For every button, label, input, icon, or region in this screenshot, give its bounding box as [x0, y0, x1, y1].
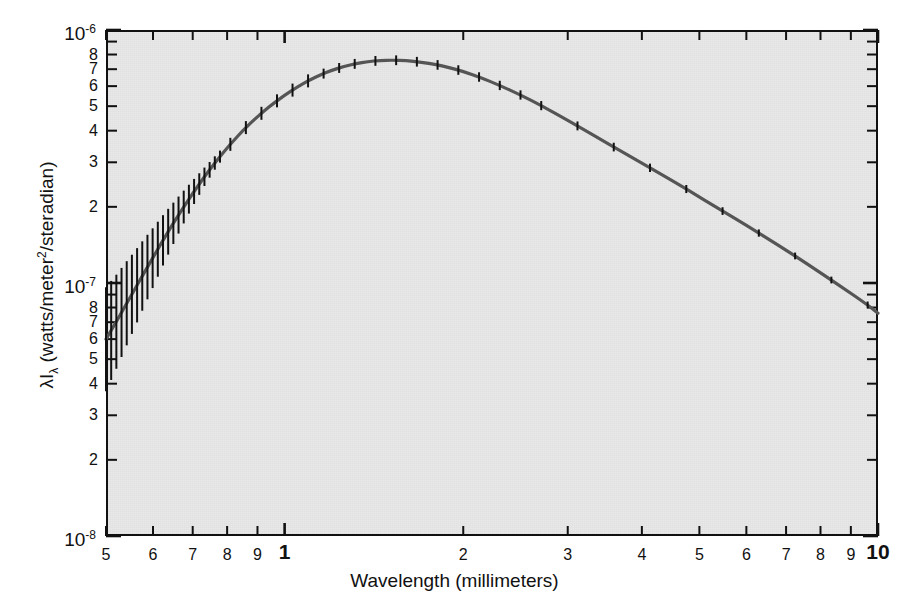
- x-tick-label: 2: [448, 547, 478, 563]
- x-axis-ticks: [106, 30, 878, 536]
- y-tick-label: 2: [64, 452, 98, 468]
- y-axis-title-I: I: [36, 374, 57, 379]
- x-tick-label: 7: [771, 547, 801, 563]
- y-axis-title: λIλ (watts/meter2/steradian): [35, 15, 61, 535]
- y-tick-exponent: -6: [85, 22, 96, 36]
- y-tick-label: 5: [64, 98, 98, 114]
- y-tick-mantissa: 10: [64, 276, 85, 297]
- y-tick-label: 6: [64, 78, 98, 94]
- x-tick-label: 4: [627, 547, 657, 563]
- x-tick-label: 5: [684, 547, 714, 563]
- x-tick-label: 9: [836, 547, 866, 563]
- x-tick-label: 3: [553, 547, 583, 563]
- x-tick-label: 10: [863, 544, 893, 560]
- y-axis-title-units-b: /steradian): [36, 162, 57, 252]
- x-tick-label: 6: [731, 547, 761, 563]
- x-tick-label: 9: [242, 547, 272, 563]
- chart-overlay: [0, 0, 909, 603]
- x-tick-label: 5: [91, 547, 121, 563]
- x-tick-label: 1: [270, 544, 300, 560]
- error-bars: [106, 55, 868, 391]
- y-tick-label: 3: [64, 154, 98, 170]
- y-tick-label: 4: [64, 376, 98, 392]
- y-axis-title-lambda: λ: [36, 379, 57, 389]
- y-axis-title-units-a: (watts/meter: [36, 258, 57, 368]
- y-tick-label: 7: [64, 314, 98, 330]
- x-tick-label: 7: [178, 547, 208, 563]
- y-axis-ticks: [106, 30, 878, 536]
- y-tick-label: 4: [64, 123, 98, 139]
- x-tick-label: 8: [805, 547, 835, 563]
- y-tick-exponent: -7: [85, 275, 96, 289]
- y-tick-label: 3: [64, 407, 98, 423]
- y-tick-mantissa: 10: [64, 23, 85, 44]
- y-tick-label: 6: [64, 331, 98, 347]
- x-tick-label: 6: [138, 547, 168, 563]
- y-tick-label: 2: [64, 199, 98, 215]
- spectrum-curve: [106, 60, 878, 339]
- y-tick-label: 7: [64, 61, 98, 77]
- x-axis-title: Wavelength (millimeters): [0, 570, 909, 592]
- y-tick-mantissa: 10: [64, 529, 85, 550]
- y-axis-title-exponent: 2: [35, 251, 49, 258]
- y-tick-exponent: -8: [85, 528, 96, 542]
- y-tick-label: 5: [64, 351, 98, 367]
- y-axis-title-subscript: λ: [47, 368, 61, 374]
- x-tick-label: 8: [212, 547, 242, 563]
- blackbody-spectrum-figure: 567891234567891010-6876543210-7876543210…: [0, 0, 909, 603]
